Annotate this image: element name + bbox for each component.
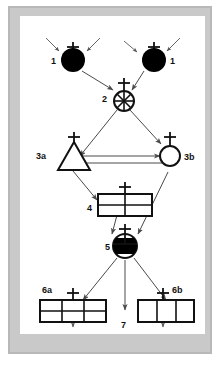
filled-circle-icon <box>61 48 85 72</box>
node-stage3a[interactable]: 3a <box>36 132 90 170</box>
edge-2-to-3a <box>80 110 117 156</box>
node-stage6a[interactable]: 6a <box>40 285 106 322</box>
edge-5-to-6a <box>83 258 117 300</box>
label-stage6b: 6b <box>172 285 183 295</box>
edge-inbound-1-right-a <box>124 41 137 52</box>
label-stage6a: 6a <box>42 285 53 295</box>
edge-4-to-5 <box>112 215 117 234</box>
node-stage1-right[interactable]: 1 <box>142 42 175 72</box>
node-stage1-left[interactable]: 1 <box>51 42 85 72</box>
edge-inbound-1-left-b <box>87 38 100 51</box>
diagram-canvas: 1 1 2 <box>20 16 205 334</box>
node-stage6b[interactable]: 6b <box>138 285 194 322</box>
edge-2-to-3b <box>130 110 161 144</box>
label-stage1-right: 1 <box>170 56 175 66</box>
grid-outline-icon <box>138 300 194 322</box>
label-stage7: 7 <box>121 320 126 330</box>
node-stage3b[interactable]: 3b <box>160 132 195 166</box>
diagram-svg: 1 1 2 <box>20 16 205 334</box>
label-stage1-left: 1 <box>51 56 56 66</box>
edge-layer <box>46 38 180 327</box>
node-stage7[interactable]: 7 <box>121 320 126 330</box>
label-stage5: 5 <box>105 242 110 252</box>
label-stage2: 2 <box>102 94 107 104</box>
label-stage3a: 3a <box>36 151 47 161</box>
label-stage4: 4 <box>87 203 92 213</box>
edge-1right-to-2 <box>132 71 144 90</box>
filled-circle-icon <box>142 48 166 72</box>
edge-3a-to-4 <box>73 171 97 200</box>
label-stage3b: 3b <box>184 152 195 162</box>
edge-inbound-1-left-a <box>46 38 59 51</box>
node-stage5[interactable]: 5 <box>105 224 137 258</box>
open-circle-icon <box>160 146 180 166</box>
edge-inbound-1-right-b <box>167 38 180 51</box>
edge-1left-to-2 <box>82 71 113 90</box>
node-stage2[interactable]: 2 <box>102 78 134 111</box>
figure-root: 1 1 2 <box>0 0 221 368</box>
